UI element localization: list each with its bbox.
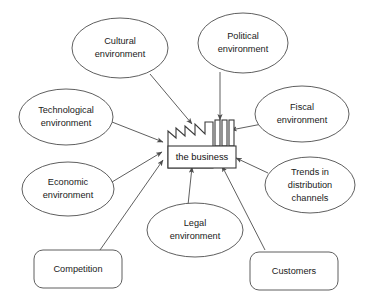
center-node-business[interactable]: the business xyxy=(168,120,236,168)
technological-ellipse xyxy=(19,89,113,145)
node-cultural-environment[interactable]: Cultural environment xyxy=(72,18,168,78)
trends-label-line1: Trends in xyxy=(291,167,329,177)
diagram-canvas: the business Cultural environment Politi… xyxy=(0,0,366,304)
customers-label: Customers xyxy=(272,266,317,276)
business-environment-diagram: the business Cultural environment Politi… xyxy=(0,0,366,304)
legal-ellipse xyxy=(147,203,243,257)
economic-label-line2: environment xyxy=(43,190,94,200)
edge-fiscal-to-business xyxy=(231,124,262,130)
node-political-environment[interactable]: Political environment xyxy=(198,13,288,73)
economic-ellipse xyxy=(22,162,114,216)
edge-legal-to-business xyxy=(188,167,192,205)
fiscal-label-line2: environment xyxy=(277,115,328,125)
cultural-label-line1: Cultural xyxy=(104,36,136,46)
fiscal-label-line1: Fiscal xyxy=(290,102,314,112)
competition-label: Competition xyxy=(53,264,102,274)
legal-label-line2: environment xyxy=(170,231,221,241)
edge-cultural-to-business xyxy=(150,74,192,124)
chimney-1 xyxy=(215,120,220,146)
fiscal-ellipse xyxy=(255,86,349,142)
political-ellipse xyxy=(198,13,288,73)
economic-label-line1: Economic xyxy=(48,177,89,187)
legal-label-line1: Legal xyxy=(184,218,206,228)
node-customers[interactable]: Customers xyxy=(250,252,338,290)
political-label-line2: environment xyxy=(218,44,269,54)
node-technological-environment[interactable]: Technological environment xyxy=(19,89,113,145)
technological-label-line1: Technological xyxy=(38,105,94,115)
political-label-line1: Political xyxy=(227,31,259,41)
edge-technological-to-business xyxy=(112,122,163,142)
node-competition[interactable]: Competition xyxy=(34,250,122,288)
edge-economic-to-business xyxy=(112,152,162,182)
node-economic-environment[interactable]: Economic environment xyxy=(22,162,114,216)
center-node-label: the business xyxy=(176,151,229,162)
chimney-2 xyxy=(222,120,227,146)
technological-label-line2: environment xyxy=(41,118,92,128)
trends-label-line3: channels xyxy=(292,193,329,203)
trends-label-line2: distribution xyxy=(288,180,332,190)
edge-trends-to-business xyxy=(236,158,268,173)
node-legal-environment[interactable]: Legal environment xyxy=(147,203,243,257)
chimney-3 xyxy=(229,120,234,146)
cultural-label-line2: environment xyxy=(95,49,146,59)
cultural-ellipse xyxy=(72,18,168,78)
node-trends-in-distribution-channels[interactable]: Trends in distribution channels xyxy=(265,157,355,213)
node-fiscal-environment[interactable]: Fiscal environment xyxy=(255,86,349,142)
